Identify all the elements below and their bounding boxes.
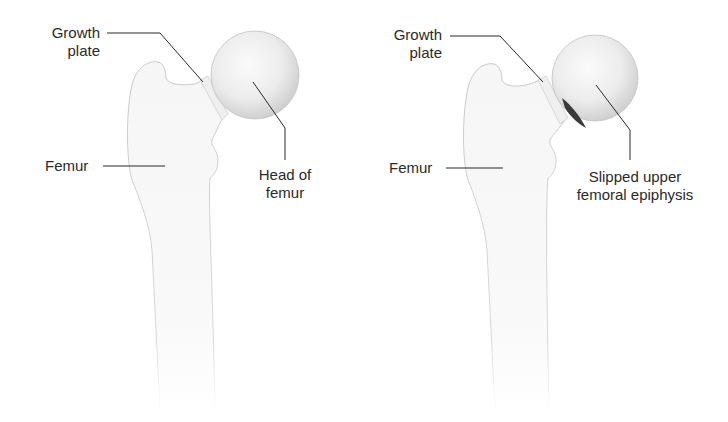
normal-femur xyxy=(103,31,299,410)
label-line: Head of xyxy=(240,166,330,184)
femur-bone-right xyxy=(464,64,566,410)
label-growth-plate-right: Growth plate xyxy=(372,26,442,62)
femoral-head-right xyxy=(552,35,638,121)
femoral-head-left xyxy=(211,31,299,119)
label-head-of-femur: Head of femur xyxy=(240,166,330,202)
label-line: Growth xyxy=(372,26,442,44)
label-slipped-epiphysis: Slipped upper femoral epiphysis xyxy=(560,168,710,204)
label-line: femur xyxy=(240,184,330,202)
label-line: plate xyxy=(372,44,442,62)
femur-bone-left xyxy=(128,62,223,410)
label-femur-right: Femur xyxy=(389,159,432,177)
label-line: femoral epiphysis xyxy=(560,186,710,204)
label-femur-left: Femur xyxy=(45,157,88,175)
slipped-femur xyxy=(446,35,638,410)
label-line: Slipped upper xyxy=(560,168,710,186)
femur-diagram-svg xyxy=(0,0,728,422)
label-line: Growth xyxy=(30,24,100,42)
label-line: plate xyxy=(30,42,100,60)
label-growth-plate-left: Growth plate xyxy=(30,24,100,60)
